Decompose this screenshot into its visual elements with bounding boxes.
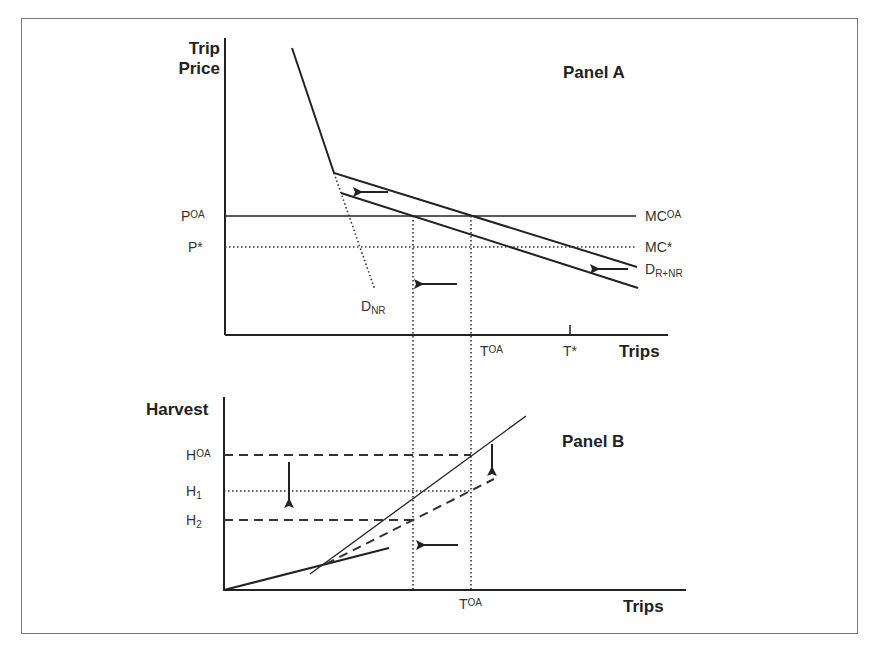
label-base: MC [645,208,667,224]
panel-a-title: Panel A [563,64,625,81]
harvest-label-h-oa: HOA [186,448,211,462]
trip-tick-t-star: T* [563,344,577,358]
label-sup: OA [190,209,204,220]
demand-shifted-curve [341,193,638,288]
label-sub: R+NR [655,268,683,279]
label-sup: OA [667,209,681,220]
y-axis-label-price: Price [170,60,220,77]
label-sup: OA [196,448,210,459]
demand-nr-label: DNR [361,299,386,313]
price-label-p-star: P* [188,240,203,254]
label-base: P [181,208,190,224]
diagram-canvas [0,0,874,648]
trip-tick-t-oa: TOA [480,344,503,358]
label-base: H [186,512,196,528]
y-axis-label-harvest: Harvest [146,401,208,418]
label-sup: OA [489,344,503,355]
harvest-steep-line [310,416,526,574]
panel-a-axes [225,38,668,335]
label-sub: 1 [196,490,202,501]
label-sub: NR [371,305,385,316]
price-label-p-oa: POA [181,209,205,223]
label-base: H [186,483,196,499]
label-sub: 2 [196,519,202,530]
label-base: T [480,343,489,359]
label-sup: OA [468,597,482,608]
panel-b-axes [224,397,686,591]
harvest-label-h1: H1 [186,484,202,498]
harvest-label-h2: H2 [186,513,202,527]
label-base: D [645,261,655,277]
x-axis-label-trips-b: Trips [623,598,664,615]
demand-nr-curve [334,173,375,290]
label-base: D [361,298,371,314]
y-axis-label-trip: Trip [170,40,220,57]
mc-star-label: MC* [645,240,672,254]
harvest-shallow-line [224,548,389,590]
demand-r-nr-label: DR+NR [645,262,683,276]
x-axis-label-trips-a: Trips [619,343,660,360]
label-base: H [186,447,196,463]
trip-tick-t-oa-b: TOA [459,597,482,611]
label-base: T [459,596,468,612]
mc-oa-label: MCOA [645,209,681,223]
panel-b-title: Panel B [562,433,624,450]
